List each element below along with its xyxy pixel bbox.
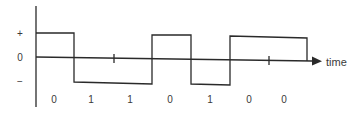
bit-label: 0 — [281, 94, 287, 105]
time-axis — [36, 57, 312, 61]
time-axis-label: time — [326, 56, 347, 68]
y-label-positive: + — [17, 28, 23, 39]
bit-label: 0 — [51, 94, 57, 105]
bit-label: 1 — [88, 94, 94, 105]
y-label-zero: 0 — [17, 52, 23, 63]
bit-label: 0 — [167, 94, 173, 105]
bit-label: 1 — [127, 94, 133, 105]
bit-label: 0 — [246, 94, 252, 105]
bit-label: 1 — [207, 94, 213, 105]
arrow-right-icon — [312, 57, 322, 66]
y-label-negative: − — [17, 76, 23, 87]
